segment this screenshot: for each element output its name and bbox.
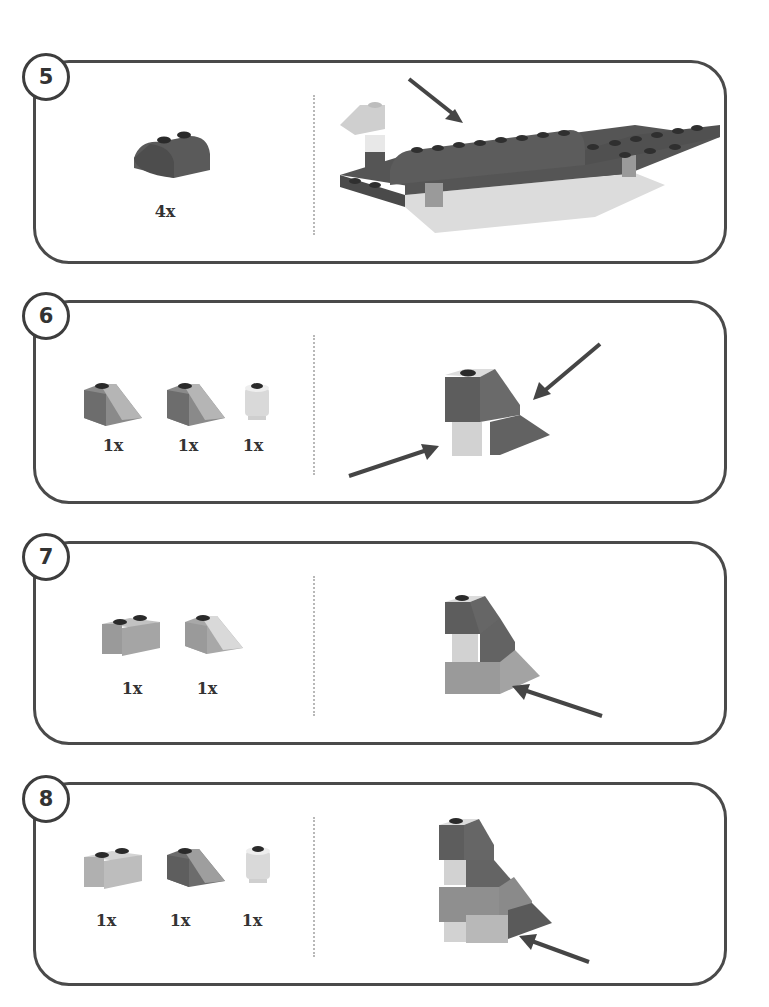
step-number-badge: 7 bbox=[22, 533, 70, 581]
placement-arrow-icon bbox=[515, 930, 595, 970]
slope-brick-icon bbox=[183, 610, 247, 662]
divider bbox=[313, 576, 315, 716]
step-number: 7 bbox=[39, 545, 54, 569]
slope-brick-icon bbox=[82, 380, 146, 432]
step-number-badge: 6 bbox=[22, 292, 70, 340]
round-brick-icon bbox=[244, 843, 274, 887]
brick-1x2-icon bbox=[82, 843, 146, 895]
brick-1x2-icon bbox=[100, 610, 164, 662]
round-brick-icon bbox=[243, 380, 273, 424]
part-quantity: 1x bbox=[178, 436, 199, 455]
step-number: 8 bbox=[39, 787, 54, 811]
part-quantity: 1x bbox=[122, 679, 143, 698]
divider bbox=[313, 817, 315, 957]
placement-arrow-icon bbox=[345, 440, 445, 485]
placement-arrow-icon bbox=[525, 340, 605, 410]
boat-assembly-illustration bbox=[335, 95, 735, 240]
curved-slope-brick-icon bbox=[130, 128, 220, 188]
divider bbox=[313, 335, 315, 475]
part-quantity: 1x bbox=[170, 911, 191, 930]
part-quantity: 1x bbox=[96, 911, 117, 930]
step-number-badge: 8 bbox=[22, 775, 70, 823]
slope-brick-icon bbox=[165, 380, 229, 432]
divider bbox=[313, 95, 315, 235]
part-quantity: 1x bbox=[243, 436, 264, 455]
placement-arrow-icon bbox=[405, 75, 475, 135]
step-number: 6 bbox=[39, 304, 54, 328]
placement-arrow-icon bbox=[508, 680, 608, 725]
part-quantity: 1x bbox=[242, 911, 263, 930]
part-quantity: 1x bbox=[197, 679, 218, 698]
part-quantity: 1x bbox=[103, 436, 124, 455]
slope-brick-icon bbox=[165, 843, 229, 895]
step-number: 5 bbox=[39, 65, 54, 89]
part-quantity: 4x bbox=[155, 202, 176, 221]
step-number-badge: 5 bbox=[22, 53, 70, 101]
